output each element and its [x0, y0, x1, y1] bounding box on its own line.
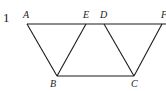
segment-EB: [57, 24, 86, 76]
label-A: A: [22, 9, 30, 20]
label-D: D: [99, 9, 108, 20]
label-E: E: [82, 9, 89, 20]
label-C: C: [131, 78, 138, 89]
label-B: B: [50, 78, 56, 89]
label-F: F: [160, 9, 166, 20]
segment-FC: [134, 24, 162, 76]
geometry-figure: A E D F B C: [0, 0, 166, 91]
segment-DC: [104, 24, 134, 76]
segment-AB: [27, 24, 57, 76]
figure-lines: [27, 24, 166, 76]
